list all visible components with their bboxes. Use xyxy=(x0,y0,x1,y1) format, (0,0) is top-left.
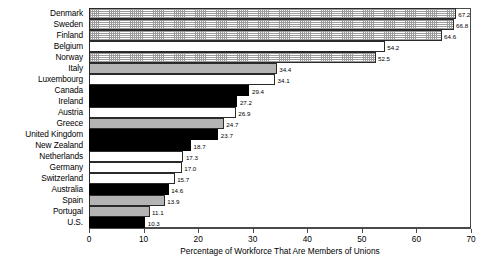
bar-value-label: 34.1 xyxy=(275,76,290,83)
bar-row: 24.7 xyxy=(89,118,471,129)
bar-value-label: 27.2 xyxy=(237,98,252,105)
bar xyxy=(89,85,249,96)
bar-row: 15.7 xyxy=(89,173,471,184)
x-axis-tick xyxy=(198,229,199,233)
bar-row: 23.7 xyxy=(89,129,471,140)
y-axis-label: Australia xyxy=(0,185,83,194)
y-axis-label: Denmark xyxy=(0,9,83,18)
bar-row: 34.4 xyxy=(89,63,471,74)
bar xyxy=(89,41,385,52)
union-membership-bar-chart: DenmarkSwedenFinlandBelgiumNorwayItalyLu… xyxy=(0,0,499,268)
bar-row: 64.6 xyxy=(89,30,471,41)
x-axis-tick xyxy=(471,229,472,233)
bar-value-label: 24.7 xyxy=(224,120,239,127)
x-axis-tick-label: 20 xyxy=(194,234,203,244)
x-axis-tick-label: 70 xyxy=(466,234,475,244)
y-axis-label: Spain xyxy=(0,196,83,205)
bar-row: 13.9 xyxy=(89,195,471,206)
y-axis-label: Ireland xyxy=(0,97,83,106)
bar-value-label: 23.7 xyxy=(218,131,233,138)
y-axis-label: Norway xyxy=(0,53,83,62)
x-axis-tick xyxy=(89,229,90,233)
bar-value-label: 14.6 xyxy=(169,186,184,193)
bar-row: 54.2 xyxy=(89,41,471,52)
bar-row: 17.0 xyxy=(89,162,471,173)
bar-row: 67.2 xyxy=(89,8,471,19)
x-axis-tick-label: 60 xyxy=(412,234,421,244)
y-axis-label: Finland xyxy=(0,31,83,40)
x-axis-tick xyxy=(307,229,308,233)
y-axis-label: Belgium xyxy=(0,42,83,51)
bar-row: 11.1 xyxy=(89,206,471,217)
x-axis: 010203040506070 xyxy=(89,228,471,229)
bar xyxy=(89,162,182,173)
y-axis-label: Netherlands xyxy=(0,152,83,161)
bar xyxy=(89,217,145,228)
bar xyxy=(89,8,456,19)
bars-layer: 67.266.864.654.252.534.434.129.427.226.9… xyxy=(89,8,471,228)
bar xyxy=(89,151,183,162)
x-axis-tick-label: 30 xyxy=(248,234,257,244)
x-axis-title: Percentage of Workforce That Are Members… xyxy=(89,246,471,256)
bar-value-label: 17.3 xyxy=(183,153,198,160)
bar-row: 29.4 xyxy=(89,85,471,96)
bar-value-label: 26.9 xyxy=(236,109,251,116)
bar-value-label: 34.4 xyxy=(277,65,292,72)
y-axis-label: Austria xyxy=(0,108,83,117)
bar-value-label: 11.1 xyxy=(150,208,164,215)
bar xyxy=(89,118,224,129)
y-axis-label: Germany xyxy=(0,163,83,172)
bar-row: 26.9 xyxy=(89,107,471,118)
x-axis-tick-label: 10 xyxy=(139,234,148,244)
bar xyxy=(89,63,277,74)
x-axis-tick-label: 50 xyxy=(357,234,366,244)
y-axis-label: New Zealand xyxy=(0,141,83,150)
bar xyxy=(89,184,169,195)
y-axis-label: United Kingdom xyxy=(0,130,83,139)
bar-value-label: 67.2 xyxy=(456,10,471,17)
bar-row: 66.8 xyxy=(89,19,471,30)
bar-row: 18.7 xyxy=(89,140,471,151)
y-axis-label: Switzerland xyxy=(0,174,83,183)
bar-row: 17.3 xyxy=(89,151,471,162)
y-axis-label: Canada xyxy=(0,86,83,95)
bar xyxy=(89,206,150,217)
bar-value-label: 52.5 xyxy=(376,54,391,61)
x-axis-tick xyxy=(253,229,254,233)
bar-row: 34.1 xyxy=(89,74,471,85)
x-axis-tick xyxy=(362,229,363,233)
bar xyxy=(89,96,237,107)
bar xyxy=(89,140,191,151)
bar xyxy=(89,173,175,184)
x-axis-tick-label: 0 xyxy=(87,234,92,244)
bar-value-label: 10.3 xyxy=(145,219,160,226)
bar xyxy=(89,129,218,140)
y-axis-label: Italy xyxy=(0,64,83,73)
bar-row: 10.3 xyxy=(89,217,471,228)
bar-value-label: 64.6 xyxy=(442,32,457,39)
y-axis-label: Sweden xyxy=(0,20,83,29)
bar-value-label: 13.9 xyxy=(165,197,180,204)
bar-row: 27.2 xyxy=(89,96,471,107)
bar xyxy=(89,107,236,118)
bar-row: 14.6 xyxy=(89,184,471,195)
bar-value-label: 17.0 xyxy=(182,164,197,171)
x-axis-tick xyxy=(144,229,145,233)
bar xyxy=(89,195,165,206)
bar xyxy=(89,52,376,63)
bar-value-label: 18.7 xyxy=(191,142,206,149)
bar-value-label: 66.8 xyxy=(454,21,469,28)
bar-value-label: 15.7 xyxy=(175,175,190,182)
y-axis-label: Luxembourg xyxy=(0,75,83,84)
y-axis-label: Greece xyxy=(0,119,83,128)
bar xyxy=(89,74,275,85)
bar xyxy=(89,19,454,30)
y-axis-label: U.S. xyxy=(0,218,83,227)
bar xyxy=(89,30,442,41)
bar-row: 52.5 xyxy=(89,52,471,63)
y-axis-category-labels: DenmarkSwedenFinlandBelgiumNorwayItalyLu… xyxy=(0,8,86,228)
bar-value-label: 29.4 xyxy=(249,87,264,94)
x-axis-tick xyxy=(416,229,417,233)
x-axis-tick-label: 40 xyxy=(303,234,312,244)
bar-value-label: 54.2 xyxy=(385,43,400,50)
